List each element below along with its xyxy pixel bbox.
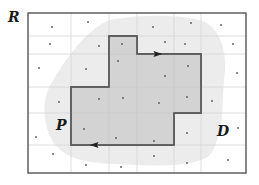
sample-point xyxy=(87,21,89,23)
sample-point xyxy=(164,41,166,43)
sample-point xyxy=(186,162,188,164)
sample-point xyxy=(152,26,154,28)
label-polygon-p: P xyxy=(56,118,67,132)
label-domain-d: D xyxy=(217,124,229,138)
sample-point xyxy=(83,128,85,130)
sample-point xyxy=(153,155,155,157)
sample-point xyxy=(49,43,51,45)
sample-point xyxy=(121,43,123,45)
sample-point xyxy=(190,22,192,24)
sample-point xyxy=(236,72,238,74)
sample-point xyxy=(117,60,119,62)
sample-point xyxy=(211,100,213,102)
sample-point xyxy=(158,102,160,104)
sample-point xyxy=(164,75,166,77)
sample-point xyxy=(184,43,186,45)
sample-point xyxy=(115,137,117,139)
sample-point xyxy=(186,132,188,134)
sample-point xyxy=(35,136,37,138)
sample-point xyxy=(98,98,100,100)
sample-point xyxy=(98,45,100,47)
sample-point xyxy=(227,159,229,161)
sample-point xyxy=(58,101,60,103)
sample-point xyxy=(237,127,239,129)
sample-point xyxy=(52,153,54,155)
sample-point xyxy=(38,67,40,69)
sample-point xyxy=(186,96,188,98)
sample-point xyxy=(122,97,124,99)
sample-point xyxy=(85,68,87,70)
sample-point xyxy=(220,24,222,26)
label-region-r: R xyxy=(8,10,20,24)
diagram-canvas xyxy=(0,0,259,185)
sample-point xyxy=(232,43,234,45)
sample-point xyxy=(51,26,53,28)
sample-point xyxy=(120,166,122,168)
sample-point xyxy=(187,65,189,67)
sample-point xyxy=(85,164,87,166)
sample-point xyxy=(153,140,155,142)
